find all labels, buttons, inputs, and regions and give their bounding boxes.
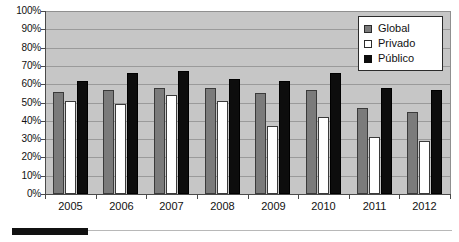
legend-swatch-publico-icon bbox=[364, 55, 372, 63]
bar-publico-2012 bbox=[431, 90, 442, 194]
y-tick-mark bbox=[41, 11, 46, 12]
bar-publico-2011 bbox=[381, 88, 392, 194]
x-tick-label-2007: 2007 bbox=[146, 199, 197, 213]
plot-right-border bbox=[450, 11, 451, 195]
legend-swatch-privado-icon bbox=[364, 40, 372, 48]
bar-privado-2005 bbox=[65, 101, 76, 194]
plot-top-border bbox=[45, 11, 451, 12]
y-tick-label: 10% bbox=[3, 171, 41, 181]
bar-global-2008 bbox=[205, 88, 216, 194]
bar-global-2005 bbox=[53, 92, 64, 194]
bar-privado-2008 bbox=[217, 101, 228, 194]
footer-rule-black-segment bbox=[12, 228, 88, 235]
legend-item-global: Global bbox=[364, 21, 437, 36]
y-tick-mark bbox=[41, 176, 46, 177]
x-tick-label-2009: 2009 bbox=[248, 199, 299, 213]
x-tick-label-2012: 2012 bbox=[399, 199, 450, 213]
bar-privado-2011 bbox=[369, 137, 380, 194]
y-tick-mark bbox=[41, 157, 46, 158]
y-tick-label: 40% bbox=[3, 116, 41, 126]
bar-publico-2008 bbox=[229, 79, 240, 194]
y-tick-mark bbox=[41, 84, 46, 85]
footer-rule bbox=[12, 228, 452, 235]
y-tick-label: 20% bbox=[3, 152, 41, 162]
legend-label-publico: Público bbox=[378, 52, 414, 65]
bar-privado-2010 bbox=[318, 117, 329, 194]
bar-publico-2010 bbox=[330, 73, 341, 194]
legend-item-privado: Privado bbox=[364, 36, 437, 51]
y-tick-mark bbox=[41, 48, 46, 49]
y-tick-mark bbox=[41, 139, 46, 140]
y-tick-label: 90% bbox=[3, 24, 41, 34]
bar-global-2007 bbox=[154, 88, 165, 194]
bar-global-2011 bbox=[357, 108, 368, 194]
x-tick-label-2011: 2011 bbox=[349, 199, 400, 213]
y-tick-label: 80% bbox=[3, 43, 41, 53]
bar-publico-2009 bbox=[279, 81, 290, 194]
y-tick-label: 50% bbox=[3, 98, 41, 108]
gridline bbox=[46, 84, 450, 85]
bar-global-2009 bbox=[255, 93, 266, 194]
bar-global-2006 bbox=[103, 90, 114, 194]
bar-global-2012 bbox=[407, 112, 418, 194]
bar-publico-2005 bbox=[77, 81, 88, 194]
y-tick-label: 100% bbox=[3, 6, 41, 16]
bar-global-2010 bbox=[306, 90, 317, 194]
x-tick-mark bbox=[450, 194, 451, 199]
legend-label-privado: Privado bbox=[378, 37, 415, 50]
x-tick-label-2006: 2006 bbox=[96, 199, 147, 213]
y-tick-label: 70% bbox=[3, 61, 41, 71]
bar-privado-2006 bbox=[115, 104, 126, 194]
y-tick-label: 30% bbox=[3, 134, 41, 144]
y-tick-mark bbox=[41, 121, 46, 122]
bar-privado-2009 bbox=[267, 126, 278, 194]
x-tick-label-2005: 2005 bbox=[45, 199, 96, 213]
legend-label-global: Global bbox=[378, 22, 410, 35]
y-tick-mark bbox=[41, 66, 46, 67]
bar-publico-2006 bbox=[127, 73, 138, 194]
y-tick-mark bbox=[41, 29, 46, 30]
y-tick-label: 60% bbox=[3, 79, 41, 89]
x-tick-label-2010: 2010 bbox=[298, 199, 349, 213]
footer-rule-gray-segment bbox=[88, 230, 452, 231]
bar-privado-2012 bbox=[419, 141, 430, 194]
bar-chart-figure: 0%10%20%30%40%50%60%70%80%90%100% 200520… bbox=[0, 0, 459, 242]
legend-swatch-global-icon bbox=[364, 25, 372, 33]
bar-publico-2007 bbox=[178, 71, 189, 194]
y-tick-label: 0% bbox=[3, 189, 41, 199]
legend-item-publico: Público bbox=[364, 51, 437, 66]
chart-legend: Global Privado Público bbox=[358, 16, 443, 71]
y-axis-labels: 0%10%20%30%40%50%60%70%80%90%100% bbox=[0, 0, 41, 242]
y-tick-mark bbox=[41, 103, 46, 104]
bar-privado-2007 bbox=[166, 95, 177, 194]
x-tick-label-2008: 2008 bbox=[197, 199, 248, 213]
